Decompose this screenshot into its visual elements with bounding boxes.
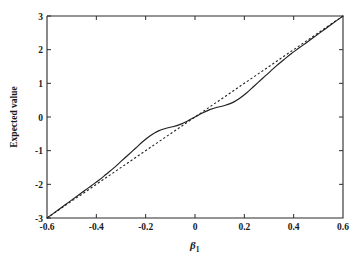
x-axis-title-subscript: 1 — [196, 245, 200, 254]
figure-container: 3 2 1 0 -1 -2 -3 -0.6 -0.4 -0.2 0 0.2 0.… — [0, 0, 363, 266]
y-tick-label-3: 3 — [38, 12, 43, 22]
y-axis-title-label: Expected value — [9, 86, 19, 147]
y-axis-title: Expected value — [9, 86, 19, 147]
x-tick-label-04: 0.4 — [288, 222, 300, 232]
x-tick-label-neg04: -0.4 — [89, 222, 104, 232]
x-tick-label-06: 0.6 — [337, 222, 349, 232]
x-tick-label-0: 0 — [193, 222, 198, 232]
expected-value-chart: 3 2 1 0 -1 -2 -3 -0.6 -0.4 -0.2 0 0.2 0.… — [0, 0, 363, 266]
x-tick-label-neg02: -0.2 — [138, 222, 153, 232]
x-tick-label-02: 0.2 — [238, 222, 250, 232]
y-tick-label-neg2: -2 — [35, 180, 43, 190]
y-tick-label-1: 1 — [38, 79, 43, 89]
y-tick-label-neg1: -1 — [35, 146, 43, 156]
y-tick-label-0: 0 — [38, 113, 43, 123]
x-tick-label-neg06: -0.6 — [39, 222, 54, 232]
y-tick-label-2: 2 — [38, 45, 43, 55]
